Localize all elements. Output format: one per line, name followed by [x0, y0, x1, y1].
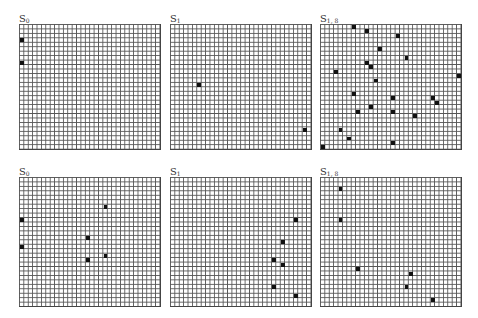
label-subscript: 1, 8	[327, 17, 338, 24]
filled-cell	[413, 114, 417, 118]
filled-cell	[104, 205, 108, 209]
filled-cell	[339, 128, 343, 132]
filled-cell	[356, 267, 360, 271]
filled-cell	[321, 145, 325, 149]
label-subscript: 0	[26, 170, 30, 177]
filled-cell	[409, 272, 413, 276]
filled-cell	[281, 263, 285, 267]
filled-cell	[339, 218, 343, 222]
filled-cell	[374, 79, 378, 83]
filled-cell	[365, 29, 369, 33]
filled-cell	[352, 25, 356, 29]
label-subscript: 0	[26, 17, 30, 24]
filled-cell	[396, 34, 400, 38]
filled-cell	[86, 258, 90, 262]
label-subscript: 1, 8	[327, 170, 338, 177]
filled-cell	[352, 92, 356, 96]
filled-cell	[347, 137, 351, 141]
filled-cell	[405, 285, 409, 289]
filled-cell	[356, 110, 360, 114]
cell-grid	[19, 177, 161, 307]
filled-cell	[334, 70, 338, 74]
label-main: S	[170, 166, 177, 177]
filled-cell	[369, 65, 373, 69]
filled-cell	[104, 254, 108, 258]
label-subscript: 1	[177, 170, 181, 177]
filled-cell	[197, 83, 201, 87]
filled-cell	[272, 285, 276, 289]
filled-cell	[391, 96, 395, 100]
filled-cell	[435, 101, 439, 105]
filled-cell	[20, 218, 24, 222]
filled-cell	[405, 56, 409, 60]
label-main: S	[170, 13, 177, 24]
filled-cell	[339, 187, 343, 191]
filled-cell	[20, 245, 24, 249]
filled-cell	[369, 105, 373, 109]
filled-cell	[281, 240, 285, 244]
filled-cell	[20, 61, 24, 65]
filled-cell	[391, 110, 395, 114]
cell-grid	[19, 24, 161, 150]
filled-cell	[294, 218, 298, 222]
label-main: S	[320, 13, 327, 24]
filled-cell	[431, 298, 435, 302]
cell-grid	[320, 24, 462, 150]
cell-grid	[320, 177, 462, 307]
filled-cell	[294, 294, 298, 298]
label-main: S	[19, 166, 26, 177]
label-subscript: 1	[177, 17, 181, 24]
filled-cell	[20, 38, 24, 42]
filled-cell	[86, 236, 90, 240]
label-main: S	[19, 13, 26, 24]
filled-cell	[457, 74, 461, 78]
filled-cell	[303, 128, 307, 132]
filled-cell	[272, 258, 276, 262]
filled-cell	[391, 141, 395, 145]
filled-cell	[378, 47, 382, 51]
filled-cell	[365, 61, 369, 65]
cell-grid	[170, 177, 312, 307]
cell-grid	[170, 24, 312, 150]
filled-cell	[431, 96, 435, 100]
label-main: S	[320, 166, 327, 177]
